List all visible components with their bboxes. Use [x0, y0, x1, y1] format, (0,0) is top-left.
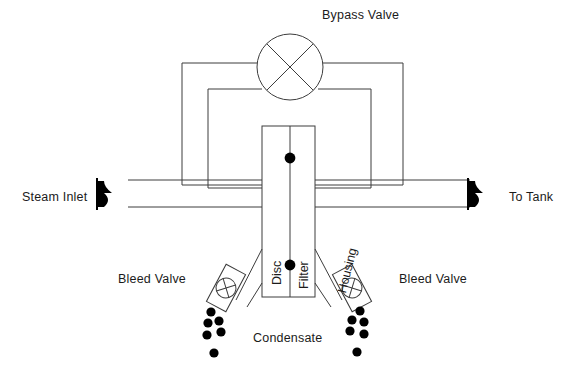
droplet-dot-icon	[209, 348, 218, 357]
disc-label: Disc	[270, 261, 284, 285]
center-dot-lower	[285, 260, 296, 271]
left-branch-lower-wall	[247, 283, 262, 307]
condensate-droplets-right	[345, 306, 368, 356]
left-bleed-valve[interactable]	[206, 264, 245, 311]
droplet-dot-icon	[206, 307, 215, 316]
bleed-valve-left-label: Bleed Valve	[118, 272, 186, 286]
bypass-valve-symbol[interactable]	[257, 34, 323, 100]
outer-loop-right-riser	[315, 63, 403, 185]
inner-loop-left-riser	[208, 89, 262, 188]
droplet-dot-icon	[216, 327, 225, 336]
outlet-arrow-shape	[468, 181, 483, 207]
flow-arrow-right-icon-inlet	[97, 178, 112, 210]
droplet-dot-icon	[202, 330, 211, 339]
condensate-label: Condensate	[253, 331, 322, 345]
droplet-dot-icon	[355, 306, 364, 315]
droplet-dot-icon	[352, 347, 361, 356]
right-branch-lower-wall	[315, 283, 331, 307]
droplet-dot-icon	[203, 318, 212, 327]
to-tank-label: To Tank	[509, 190, 553, 204]
inner-loop-right-riser	[315, 89, 371, 188]
filter-label: Filter	[297, 261, 311, 289]
bleed-valve-right-label: Bleed Valve	[399, 272, 467, 286]
flow-arrow-right-icon-outlet	[468, 178, 483, 210]
bypass-valve-label: Bypass Valve	[322, 8, 399, 22]
steam-filter-bypass-diagram: Bypass Valve Steam Inlet To Tank Bleed V…	[0, 0, 573, 381]
inlet-arrow-shape	[97, 181, 112, 207]
outer-loop-left-riser	[182, 63, 262, 185]
droplet-dot-icon	[345, 326, 354, 335]
droplet-dot-icon	[347, 315, 356, 324]
droplet-dot-icon	[214, 316, 223, 325]
condensate-droplets-left	[202, 307, 225, 357]
droplet-dot-icon	[359, 329, 368, 338]
steam-inlet-label: Steam Inlet	[22, 190, 87, 204]
droplet-dot-icon	[359, 317, 368, 326]
center-dot-upper	[285, 153, 296, 164]
